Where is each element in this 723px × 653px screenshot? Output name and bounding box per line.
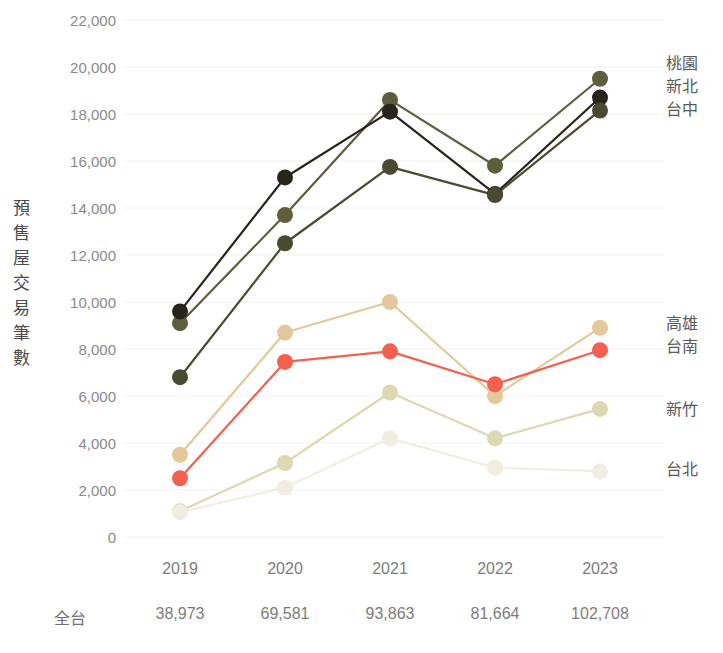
series-line-新竹: [180, 392, 600, 511]
data-point[interactable]: [592, 320, 608, 336]
legend-group: 高雄台南: [666, 312, 698, 358]
y-axis-ticks: 02,0004,0006,0008,00010,00012,00014,0001…: [36, 0, 116, 653]
data-point[interactable]: [172, 369, 188, 385]
x-tick-label: 2023: [582, 560, 618, 578]
legend-entry-台中[interactable]: 台中: [666, 97, 698, 120]
series-line-台中: [180, 110, 600, 377]
x-tick-label: 2019: [162, 560, 198, 578]
data-point[interactable]: [277, 480, 293, 496]
y-tick-label: 0: [36, 529, 116, 546]
data-point[interactable]: [592, 102, 608, 118]
data-point[interactable]: [592, 342, 608, 358]
data-point[interactable]: [172, 303, 188, 319]
y-tick-label: 18,000: [36, 106, 116, 123]
y-axis-title-char: 交: [8, 271, 34, 296]
data-point[interactable]: [382, 343, 398, 359]
legend-entry-新北[interactable]: 新北: [666, 74, 698, 97]
data-point[interactable]: [382, 384, 398, 400]
y-tick-label: 10,000: [36, 294, 116, 311]
plot-svg: [124, 10, 664, 545]
total-value: 102,708: [571, 605, 629, 623]
total-value: 93,863: [366, 605, 415, 623]
y-tick-label: 4,000: [36, 435, 116, 452]
data-point[interactable]: [382, 430, 398, 446]
data-point[interactable]: [592, 401, 608, 417]
x-tick-label: 2022: [477, 560, 513, 578]
data-point[interactable]: [277, 207, 293, 223]
legend-group: 新竹: [666, 397, 698, 420]
y-axis-title-char: 數: [8, 346, 34, 371]
legend-entry-桃園[interactable]: 桃園: [666, 51, 698, 74]
legend-entry-新竹[interactable]: 新竹: [666, 397, 698, 420]
legend-group: 台北: [666, 457, 698, 480]
totals-row: 全台 38,97369,58193,86381,664102,708: [0, 605, 723, 635]
data-point[interactable]: [487, 376, 503, 392]
total-value: 81,664: [471, 605, 520, 623]
data-point[interactable]: [277, 169, 293, 185]
legend-entry-台南[interactable]: 台南: [666, 335, 698, 358]
legend-group: 桃園新北台中: [666, 51, 698, 120]
legend-entry-台北[interactable]: 台北: [666, 457, 698, 480]
data-point[interactable]: [382, 294, 398, 310]
y-tick-label: 12,000: [36, 247, 116, 264]
series-points: [172, 71, 608, 521]
data-point[interactable]: [172, 504, 188, 520]
line-chart: 預售屋交易筆數 02,0004,0006,0008,00010,00012,00…: [0, 0, 723, 653]
x-tick-label: 2021: [372, 560, 408, 578]
data-point[interactable]: [277, 325, 293, 341]
plot-area: [124, 10, 664, 545]
y-axis-title-char: 售: [8, 221, 34, 246]
legend: 桃園新北台中高雄台南新竹台北: [666, 0, 723, 653]
y-tick-label: 22,000: [36, 12, 116, 29]
data-point[interactable]: [487, 187, 503, 203]
y-tick-label: 6,000: [36, 388, 116, 405]
y-tick-label: 20,000: [36, 59, 116, 76]
data-point[interactable]: [487, 430, 503, 446]
data-point[interactable]: [277, 235, 293, 251]
data-point[interactable]: [382, 159, 398, 175]
total-value: 69,581: [261, 605, 310, 623]
data-point[interactable]: [277, 455, 293, 471]
series-line-台北: [180, 438, 600, 512]
data-point[interactable]: [277, 354, 293, 370]
data-point[interactable]: [592, 463, 608, 479]
y-axis-title-char: 屋: [8, 246, 34, 271]
data-point[interactable]: [487, 158, 503, 174]
y-tick-label: 14,000: [36, 200, 116, 217]
y-axis-title-char: 預: [8, 196, 34, 221]
data-point[interactable]: [592, 71, 608, 87]
y-tick-label: 16,000: [36, 153, 116, 170]
data-point[interactable]: [172, 470, 188, 486]
y-tick-label: 2,000: [36, 482, 116, 499]
y-axis-title-char: 筆: [8, 321, 34, 346]
data-point[interactable]: [172, 447, 188, 463]
data-point[interactable]: [487, 460, 503, 476]
x-axis-ticks: 20192020202120222023: [124, 560, 664, 586]
legend-entry-高雄[interactable]: 高雄: [666, 312, 698, 335]
total-value: 38,973: [156, 605, 205, 623]
y-axis-title: 預售屋交易筆數: [8, 196, 34, 371]
y-tick-label: 8,000: [36, 341, 116, 358]
totals-row-label: 全台: [54, 605, 86, 629]
y-axis-title-char: 易: [8, 296, 34, 321]
data-point[interactable]: [382, 104, 398, 120]
x-tick-label: 2020: [267, 560, 303, 578]
